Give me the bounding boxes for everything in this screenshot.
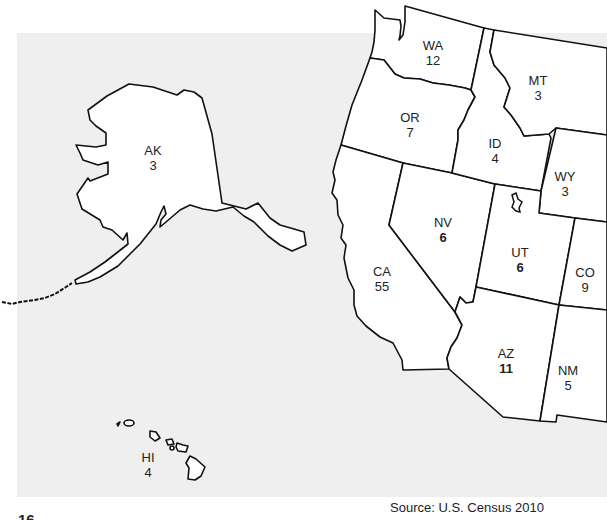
- state-abbr: AK: [144, 143, 161, 158]
- state-ak[interactable]: [75, 84, 306, 284]
- label-mt: MT 3: [529, 73, 548, 103]
- state-abbr: CA: [373, 264, 391, 279]
- state-value: 3: [144, 158, 161, 173]
- state-value: 55: [373, 279, 391, 294]
- state-abbr: NM: [558, 363, 578, 378]
- state-value: 6: [434, 230, 452, 245]
- aleutian-islands: [2, 283, 72, 304]
- label-id: ID 4: [489, 136, 502, 166]
- label-nm: NM 5: [558, 363, 578, 393]
- state-abbr: CO: [575, 265, 595, 280]
- state-abbr: MT: [529, 73, 548, 88]
- state-abbr: ID: [489, 136, 502, 151]
- state-abbr: HI: [142, 450, 155, 465]
- state-value: 9: [575, 280, 595, 295]
- state-abbr: WY: [555, 169, 576, 184]
- state-abbr: WA: [423, 38, 443, 53]
- state-abbr: OR: [400, 110, 420, 125]
- label-ak: AK 3: [144, 143, 161, 173]
- state-value: 7: [400, 125, 420, 140]
- state-value: 11: [498, 361, 515, 376]
- state-value: 4: [489, 151, 502, 166]
- label-or: OR 7: [400, 110, 420, 140]
- state-value: 6: [511, 260, 528, 275]
- state-value: 5: [558, 378, 578, 393]
- label-az: AZ 11: [498, 346, 515, 376]
- label-co: CO 9: [575, 265, 595, 295]
- page-number: 16: [18, 509, 35, 520]
- state-value: 3: [555, 184, 576, 199]
- state-abbr: UT: [511, 245, 528, 260]
- state-abbr: AZ: [498, 346, 515, 361]
- label-nv: NV 6: [434, 215, 452, 245]
- state-abbr: NV: [434, 215, 452, 230]
- label-wy: WY 3: [555, 169, 576, 199]
- label-wa: WA 12: [423, 38, 443, 68]
- state-hi[interactable]: [117, 420, 205, 480]
- label-ut: UT 6: [511, 245, 528, 275]
- state-value: 12: [423, 53, 443, 68]
- label-ca: CA 55: [373, 264, 391, 294]
- state-value: 4: [142, 465, 155, 480]
- label-hi: HI 4: [142, 450, 155, 480]
- source-caption: Source: U.S. Census 2010: [390, 500, 544, 515]
- state-value: 3: [529, 88, 548, 103]
